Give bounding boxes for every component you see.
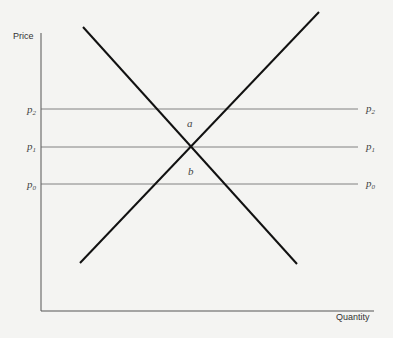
supply-demand-diagram: Price Quantity p2 p1 p0 p2 p1 p0 a b [0, 0, 393, 338]
y-axis-label: Price [13, 31, 34, 41]
demand-curve [83, 27, 297, 264]
supply-curve [80, 12, 319, 263]
price-label-left-p1: p1 [26, 140, 36, 154]
price-label-right-p0: p0 [365, 177, 376, 191]
x-axis-label: Quantity [336, 312, 370, 322]
region-label-b: b [188, 165, 194, 177]
price-label-left-p2: p2 [26, 103, 37, 117]
price-label-right-p1: p1 [365, 140, 375, 154]
price-label-right-p2: p2 [365, 102, 376, 116]
region-label-a: a [187, 117, 193, 129]
price-label-left-p0: p0 [26, 178, 37, 192]
